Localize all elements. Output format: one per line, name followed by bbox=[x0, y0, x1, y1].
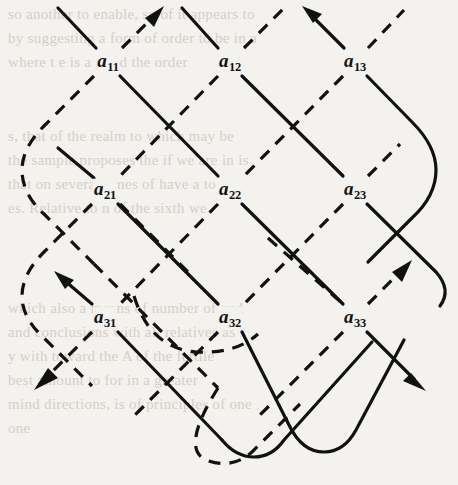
matrix-entry-a31: a31 bbox=[93, 307, 117, 330]
dashed-entry-a12-upright bbox=[244, 8, 284, 48]
dashed-bottom-u-curve bbox=[195, 388, 300, 464]
matrix-entry-a33: a33 bbox=[343, 307, 367, 330]
solid-diagonal-a33-out bbox=[367, 332, 414, 379]
arrowhead-a33-upright bbox=[392, 260, 412, 282]
matrix-entry-a32: a32 bbox=[218, 307, 242, 330]
solid-entry-a21 bbox=[58, 148, 94, 178]
dashed-arrow-line-a31-downleft bbox=[48, 332, 92, 376]
arrowhead-bottom-right bbox=[403, 373, 426, 391]
solid-arrow-line-a13-upleft bbox=[312, 16, 344, 48]
solid-wrap-right-curve-a13 bbox=[367, 76, 436, 262]
arrowhead-a11-upright bbox=[145, 6, 164, 27]
solid-entry-a12 bbox=[182, 8, 218, 48]
arrowhead-bottom-left bbox=[34, 368, 58, 390]
dashed-entry-a13-upright bbox=[368, 10, 404, 48]
arrowhead-top-right-upleft bbox=[302, 6, 322, 23]
dashed-entry-a33-upleft bbox=[268, 238, 343, 304]
matrix-entry-a12: a12 bbox=[218, 51, 242, 74]
matrix-entry-a23: a23 bbox=[343, 179, 367, 202]
matrix-entry-a21: a21 bbox=[93, 179, 117, 202]
solid-diagonal-a23-down bbox=[367, 204, 445, 306]
solid-entry-a11 bbox=[58, 8, 96, 48]
matrix-entry-a22: a22 bbox=[218, 179, 242, 202]
solid-diagonal-a31-down bbox=[118, 332, 222, 440]
dashed-entry-a23-upright bbox=[368, 144, 400, 176]
matrix-entry-a11: a11 bbox=[96, 51, 119, 74]
sarrus-determinant-figure: so another to enable, so of it appears t… bbox=[0, 0, 458, 485]
dashed-arrow-line-a11-upright bbox=[122, 18, 152, 48]
dashed-arrow-line-a33-upright bbox=[368, 272, 400, 304]
matrix-entry-a13: a13 bbox=[343, 51, 367, 74]
